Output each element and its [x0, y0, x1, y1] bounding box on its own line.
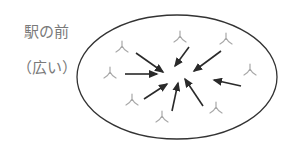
people-group: [104, 31, 256, 122]
crowd-diagram: [0, 0, 299, 156]
arrow-icon: [136, 53, 163, 72]
person-icon: [244, 64, 256, 75]
person-icon: [174, 31, 186, 42]
arrows-group: [125, 47, 241, 111]
person-icon: [104, 67, 116, 78]
person-icon: [126, 94, 138, 105]
arrow-icon: [172, 83, 178, 111]
person-icon: [210, 102, 222, 113]
arrow-icon: [194, 51, 221, 71]
arrow-icon: [175, 47, 189, 66]
station-area-ellipse: [77, 15, 277, 139]
arrow-icon: [214, 80, 241, 86]
person-icon: [156, 111, 168, 122]
arrow-icon: [144, 84, 167, 99]
person-icon: [116, 41, 128, 52]
arrow-icon: [185, 79, 203, 106]
person-icon: [220, 33, 232, 44]
